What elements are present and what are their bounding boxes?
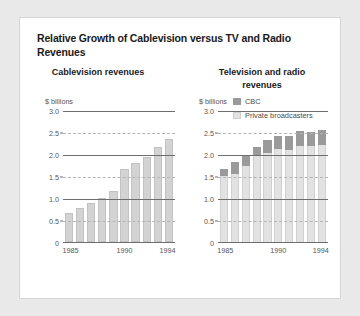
bar-segment-cbc (307, 132, 315, 146)
bar (165, 110, 173, 242)
y-axis-tick-mark (60, 177, 63, 178)
bar-segment-private-broadcasters (307, 146, 315, 242)
y-axis-tick-label: 1.0 (49, 195, 59, 204)
y-axis-tick-label: 2.0 (49, 151, 59, 160)
y-axis-tick-label: 1.0 (204, 195, 214, 204)
bar (263, 110, 271, 242)
x-axis-tick-label: 1994 (160, 246, 176, 255)
bar (318, 110, 326, 242)
gridline (63, 133, 175, 134)
x-axis-labels-right: 198519901994 (218, 246, 328, 258)
y-axis-tick-label: 3.0 (49, 107, 59, 116)
gridline (218, 155, 328, 156)
bar-segment-cbc (274, 136, 282, 148)
bar-segment-private-broadcasters (296, 146, 304, 242)
bar-segment-cbc (231, 162, 239, 174)
x-axis-tick-label: 1990 (270, 246, 286, 255)
gridline (218, 133, 328, 134)
y-axis-units-right: $ billions (199, 97, 227, 106)
bar (296, 110, 304, 242)
bar (87, 110, 95, 242)
bar (143, 110, 151, 242)
bar (307, 110, 315, 242)
x-axis-line-left (63, 242, 175, 243)
y-axis-tick-label: 0.5 (204, 217, 214, 226)
bar-segment-private-broadcasters (231, 174, 239, 242)
bar-segment-cablevision (120, 169, 128, 242)
bar (231, 110, 239, 242)
bar (242, 110, 250, 242)
bar-segment-cablevision (154, 147, 162, 242)
y-axis-tick-mark (215, 221, 218, 222)
y-axis-tick-label: 2.5 (49, 129, 59, 138)
y-axis-tick-mark (215, 177, 218, 178)
y-axis-tick-label: 2.0 (204, 151, 214, 160)
y-axis-tick-label: 2.5 (204, 129, 214, 138)
bar (120, 110, 128, 242)
bar-segment-cbc (220, 169, 228, 176)
gridline (63, 177, 175, 178)
bar-segment-cbc (285, 136, 293, 149)
gridline (218, 111, 328, 112)
bar-segment-cablevision (98, 198, 106, 242)
y-axis-units-left: $ billions (45, 97, 73, 106)
legend-label-cbc: CBC (245, 97, 261, 106)
bar (76, 110, 84, 242)
chart-subtitle-cablevision: Cablevision revenues (38, 66, 158, 79)
gridline (63, 155, 175, 156)
bar-group-cablevision (63, 110, 175, 242)
bar (220, 110, 228, 242)
legend-item-cbc: CBC (233, 96, 337, 107)
y-axis-tick-mark (60, 133, 63, 134)
gridline (63, 199, 175, 200)
gridline (63, 111, 175, 112)
bar-segment-cablevision (87, 203, 95, 242)
x-axis-tick-label: 1990 (116, 246, 132, 255)
bar-segment-private-broadcasters (274, 149, 282, 242)
bar (285, 110, 293, 242)
y-axis-tick-label: 0 (210, 239, 214, 248)
bar-segment-private-broadcasters (263, 153, 271, 242)
x-axis-tick-label: 1985 (62, 246, 78, 255)
bar-segment-private-broadcasters (220, 176, 228, 242)
x-axis-tick-label: 1985 (217, 246, 233, 255)
bar-segment-cablevision (131, 163, 139, 242)
y-axis-tick-mark (60, 221, 63, 222)
bar-segment-cbc (263, 140, 271, 154)
gridline (63, 221, 175, 222)
y-axis-tick-mark (215, 133, 218, 134)
bar (154, 110, 162, 242)
bar-group-television-radio (218, 110, 328, 242)
bar (98, 110, 106, 242)
y-axis-tick-label: 0.5 (49, 217, 59, 226)
bar (274, 110, 282, 242)
bar (253, 110, 261, 242)
y-axis-tick-label: 0 (55, 239, 59, 248)
gridline (218, 177, 328, 178)
bar-segment-cablevision (65, 213, 73, 242)
y-axis-tick-label: 1.5 (204, 173, 214, 182)
bar (65, 110, 73, 242)
legend-swatch-cbc-icon (233, 98, 241, 105)
plot-area-television-radio: 198519901994 3.02.52.01.51.00.50 (218, 110, 328, 243)
y-axis-tick-label: 3.0 (204, 107, 214, 116)
bar-segment-cbc (242, 155, 250, 166)
bar (109, 110, 117, 242)
x-axis-labels-left: 198519901994 (63, 246, 175, 258)
chart-cablevision-revenues: Cablevision revenues $ billions 19851990… (28, 66, 186, 292)
bar-segment-cablevision (76, 208, 84, 242)
chart-television-radio-revenues: Television and radio revenues $ billions… (185, 66, 337, 292)
bar-segment-private-broadcasters (285, 150, 293, 242)
gridline (218, 199, 328, 200)
figure-title: Relative Growth of Cablevision versus TV… (37, 31, 295, 59)
bar (131, 110, 139, 242)
y-axis-tick-label: 1.5 (49, 173, 59, 182)
chart-subtitle-television-radio: Television and radio revenues (203, 66, 321, 91)
bar-segment-private-broadcasters (318, 145, 326, 242)
plot-area-cablevision: 198519901994 3.02.52.01.51.00.50 (63, 110, 175, 243)
figure-panel: Relative Growth of Cablevision versus TV… (19, 17, 341, 299)
x-axis-tick-label: 1994 (313, 246, 329, 255)
gridline (218, 221, 328, 222)
x-axis-line-right (218, 242, 328, 243)
